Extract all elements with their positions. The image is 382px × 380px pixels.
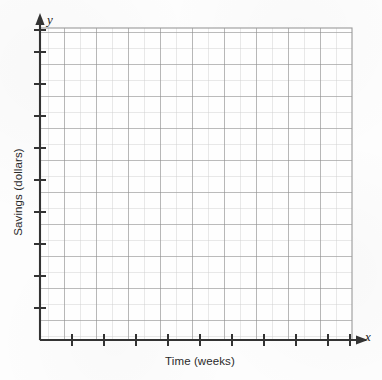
coordinate-grid-figure: y x Time (weeks) Savings (dollars) [0,0,382,380]
coordinate-plane[interactable] [0,0,382,380]
x-axis-variable-label: x [365,329,371,345]
y-axis-variable-label: y [47,12,53,28]
up-arrow-icon [35,13,44,25]
major-gridlines [40,28,352,340]
y-axis-title: Savings (dollars) [12,122,24,262]
x-axis-title: Time (weeks) [0,355,382,367]
